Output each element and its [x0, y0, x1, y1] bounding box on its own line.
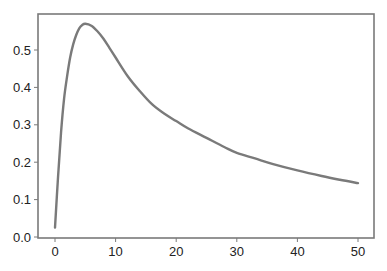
y-tick-label: 0.5	[13, 43, 31, 58]
x-tick-label: 0	[51, 244, 58, 259]
y-tick-label: 0.1	[13, 192, 31, 207]
y-tick-label: 0.4	[13, 80, 31, 95]
x-tick-label: 30	[230, 244, 244, 259]
y-tick-label: 0.3	[13, 117, 31, 132]
x-tick-label: 40	[290, 244, 304, 259]
line-chart: 0.00.10.20.30.40.5 01020304050	[0, 0, 387, 271]
y-tick-label: 0.0	[13, 230, 31, 245]
x-axis: 01020304050	[51, 238, 365, 259]
x-tick-label: 20	[169, 244, 183, 259]
x-tick-label: 50	[351, 244, 365, 259]
plot-area	[38, 14, 374, 238]
y-tick-label: 0.2	[13, 155, 31, 170]
y-axis: 0.00.10.20.30.40.5	[13, 43, 38, 245]
x-tick-label: 10	[108, 244, 122, 259]
